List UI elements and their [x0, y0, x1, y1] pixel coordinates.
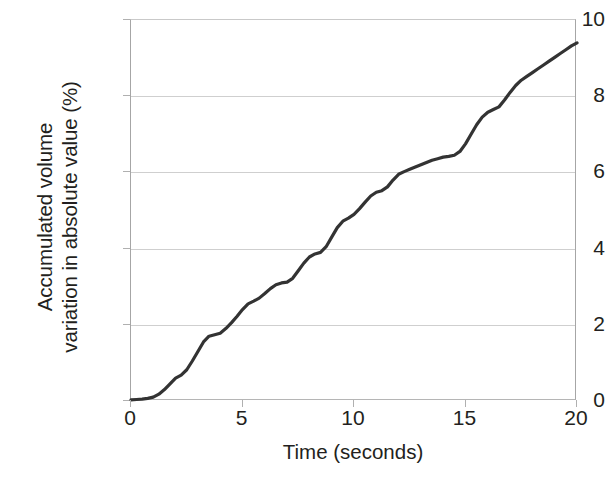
x-tick-mark-10	[353, 400, 354, 407]
y-tick-mark-6	[123, 171, 130, 172]
x-tick-mark-5	[242, 400, 243, 407]
x-tick-label-15: 15	[435, 406, 495, 430]
y-axis-title-line-2: variation in absolute value (%)	[57, 81, 82, 353]
y-tick-mark-2	[123, 324, 130, 325]
x-tick-label-20: 20	[546, 406, 606, 430]
chart-figure: Accumulated volume variation in absolute…	[0, 0, 615, 486]
y-tick-mark-10	[123, 19, 130, 20]
y-tick-mark-8	[123, 95, 130, 96]
y-tick-mark-4	[123, 248, 130, 249]
x-tick-label-0: 0	[100, 406, 160, 430]
x-tick-mark-0	[130, 400, 131, 407]
x-axis-title: Time (seconds)	[130, 440, 576, 464]
x-tick-label-5: 5	[212, 406, 272, 430]
x-tick-label-10: 10	[323, 406, 383, 430]
x-tick-mark-15	[465, 400, 466, 407]
y-axis-title-line-1: Accumulated volume	[32, 123, 57, 312]
data-series-line	[131, 20, 577, 401]
plot-area	[130, 19, 576, 400]
x-tick-mark-20	[576, 400, 577, 407]
y-axis-title: Accumulated volume variation in absolute…	[27, 17, 87, 417]
y-tick-mark-0	[123, 400, 130, 401]
